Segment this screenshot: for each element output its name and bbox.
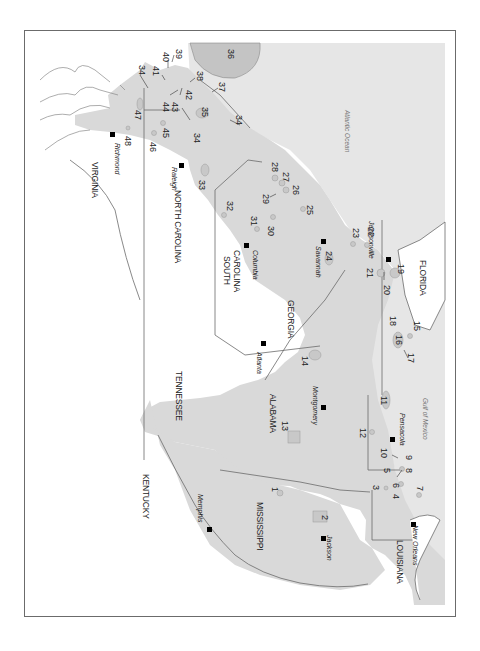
site-label-18: 18 xyxy=(388,316,398,326)
site-label-37: 37 xyxy=(217,82,227,92)
site-label-2: 2 xyxy=(320,515,330,520)
city-label-jacksonville: Jacksonville xyxy=(368,220,375,259)
site-label-17: 17 xyxy=(406,353,416,363)
city-marker-jacksonville xyxy=(386,257,391,262)
site-label-30: 30 xyxy=(266,226,276,236)
water-label-atlantic-ocean: Atlantic Ocean xyxy=(344,109,351,153)
city-marker-richmond xyxy=(110,132,115,137)
city-marker-raleigh xyxy=(179,163,184,168)
site-label-38: 38 xyxy=(195,71,205,81)
site-label-45: 45 xyxy=(161,128,171,138)
site-label-41: 41 xyxy=(151,66,161,76)
state-label-alabama: ALABAMA xyxy=(268,394,278,433)
site-label-6: 6 xyxy=(391,483,401,488)
site-label-25: 25 xyxy=(305,205,315,215)
site-label-1: 1 xyxy=(270,487,280,492)
city-label-columbia: Columbia xyxy=(252,250,259,280)
site-label-5: 5 xyxy=(382,468,392,473)
site-label-34-b: 34 xyxy=(192,133,202,143)
site-label-4: 4 xyxy=(391,494,401,499)
city-marker-columbia xyxy=(244,243,249,248)
site-label-27: 27 xyxy=(281,172,291,182)
city-label-atlanta: Atlanta xyxy=(256,351,263,374)
site-label-39: 39 xyxy=(174,49,184,59)
state-label-north-carolina: NORTH CAROLINA xyxy=(173,190,183,264)
site-label-36: 36 xyxy=(226,49,236,59)
city-marker-jackson xyxy=(321,536,326,541)
site-label-9: 9 xyxy=(404,455,414,460)
city-marker-pensacola xyxy=(390,437,395,442)
city-marker-memphis xyxy=(207,527,212,532)
site-label-24: 24 xyxy=(324,251,334,261)
city-marker-atlanta xyxy=(261,341,266,346)
state-label-virginia: VIRGINIA xyxy=(90,162,100,198)
site-label-13: 13 xyxy=(280,421,290,431)
site-label-11: 11 xyxy=(379,396,389,405)
site-label-47: 47 xyxy=(133,110,143,120)
city-label-new-orleans: New Orleans xyxy=(412,525,419,566)
state-label-florida: FLORIDA xyxy=(418,260,428,296)
state-label-louisiana: LOUISIANA xyxy=(395,540,405,584)
site-label-40: 40 xyxy=(161,52,171,62)
water-label-gulf-of-mexico: Gulf of Mexico xyxy=(422,398,429,440)
site-label-26: 26 xyxy=(291,185,301,195)
site-label-23: 23 xyxy=(351,228,361,238)
site-label-48: 48 xyxy=(123,136,133,146)
southeast-map: VIRGINIA NORTH CAROLINA SOUTH CAROLINA T… xyxy=(0,0,480,651)
site-label-12: 12 xyxy=(358,428,368,438)
state-label-georgia: GEORGIA xyxy=(286,300,296,339)
city-label-pensacola: Pensacola xyxy=(399,413,406,446)
site-label-7: 7 xyxy=(415,486,425,491)
site-label-14: 14 xyxy=(300,356,310,366)
site-label-42: 42 xyxy=(184,90,194,100)
site-label-8: 8 xyxy=(404,468,414,473)
city-label-memphis: Memphis xyxy=(196,494,204,523)
state-label-south-carolina-2: CAROLINA xyxy=(232,250,242,292)
city-label-montgomery: Montgomery xyxy=(311,386,319,425)
site-label-16: 16 xyxy=(394,335,404,345)
city-marker-montgomery xyxy=(321,405,326,410)
city-label-raleigh: Raleigh xyxy=(170,167,178,191)
site-label-20: 20 xyxy=(382,285,392,295)
site-label-34-c: 34 xyxy=(234,115,244,125)
site-label-10: 10 xyxy=(379,448,389,458)
city-marker-savannah xyxy=(321,239,326,244)
site-label-33: 33 xyxy=(197,180,207,190)
state-label-kentucky: KENTUCKY xyxy=(141,474,151,519)
site-label-19: 19 xyxy=(396,264,406,274)
site-label-22: 22 xyxy=(366,227,376,237)
site-13-area xyxy=(288,431,300,443)
site-label-15: 15 xyxy=(412,321,422,331)
state-label-south-carolina-1: SOUTH xyxy=(222,256,232,285)
site-label-21: 21 xyxy=(365,268,375,278)
city-label-richmond: Richmond xyxy=(114,143,121,176)
site-label-28: 28 xyxy=(270,162,280,172)
site-label-32: 32 xyxy=(225,201,235,211)
site-label-29: 29 xyxy=(261,194,271,204)
state-label-tennessee: TENNESSEE xyxy=(174,371,184,421)
city-label-savannah: Savannah xyxy=(315,246,322,278)
site-label-35: 35 xyxy=(200,107,210,117)
site-label-3: 3 xyxy=(371,485,381,490)
state-label-mississippi: MISSISSIPPI xyxy=(255,502,265,550)
site-label-46: 46 xyxy=(148,142,158,152)
city-label-jackson: Jackson xyxy=(326,534,333,561)
site-label-34-a: 34 xyxy=(137,65,147,75)
site-label-31: 31 xyxy=(249,216,259,226)
site-label-44: 44 xyxy=(161,102,171,112)
